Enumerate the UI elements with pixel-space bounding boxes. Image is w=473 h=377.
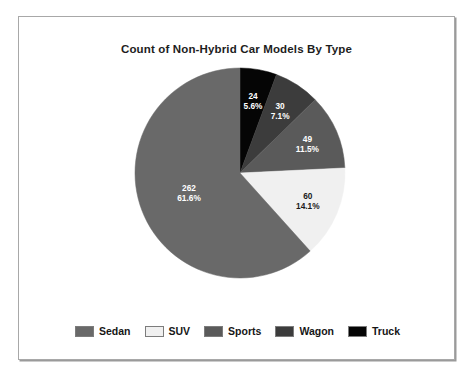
legend-swatch-truck <box>348 326 367 337</box>
pie-slice-percent-sports: 11.5% <box>295 144 319 154</box>
pie-slice-value-sedan: 262 <box>182 183 196 193</box>
legend-swatch-suv <box>145 326 164 337</box>
pie-slice-percent-wagon: 7.1% <box>270 111 290 121</box>
page-title: Count of Non-Hybrid Car Models By Type <box>19 43 454 55</box>
pie-slice-percent-sedan: 61.6% <box>177 193 201 203</box>
legend-label-truck: Truck <box>372 325 400 337</box>
legend-item-suv[interactable]: SUV <box>145 325 191 337</box>
legend-swatch-wagon <box>275 326 294 337</box>
legend-item-sedan[interactable]: Sedan <box>75 325 131 337</box>
legend-label-suv: SUV <box>169 325 191 337</box>
chart-frame: Count of Non-Hybrid Car Models By Type 2… <box>18 16 455 360</box>
pie-slice-group <box>135 68 345 278</box>
pie-slice-value-suv: 60 <box>303 191 313 201</box>
pie-slice-percent-truck: 5.6% <box>243 101 263 111</box>
pie-slice-value-truck: 24 <box>248 91 258 101</box>
legend-item-sports[interactable]: Sports <box>204 325 261 337</box>
legend-swatch-sports <box>204 326 223 337</box>
legend-label-sedan: Sedan <box>99 325 131 337</box>
legend-label-sports: Sports <box>228 325 261 337</box>
pie-slice-percent-suv: 14.1% <box>296 201 320 211</box>
pie-chart-svg: 245.6%307.1%4911.5%6014.1%26261.6% <box>28 63 448 293</box>
pie-slice-value-wagon: 30 <box>275 101 285 111</box>
legend-item-wagon[interactable]: Wagon <box>275 325 334 337</box>
legend-item-truck[interactable]: Truck <box>348 325 400 337</box>
legend-swatch-sedan <box>75 326 94 337</box>
pie-chart-plot-area: 245.6%307.1%4911.5%6014.1%26261.6% <box>19 63 456 295</box>
legend-label-wagon: Wagon <box>299 325 334 337</box>
pie-slice-value-sports: 49 <box>302 134 312 144</box>
legend: SedanSUVSportsWagonTruck <box>19 325 456 337</box>
